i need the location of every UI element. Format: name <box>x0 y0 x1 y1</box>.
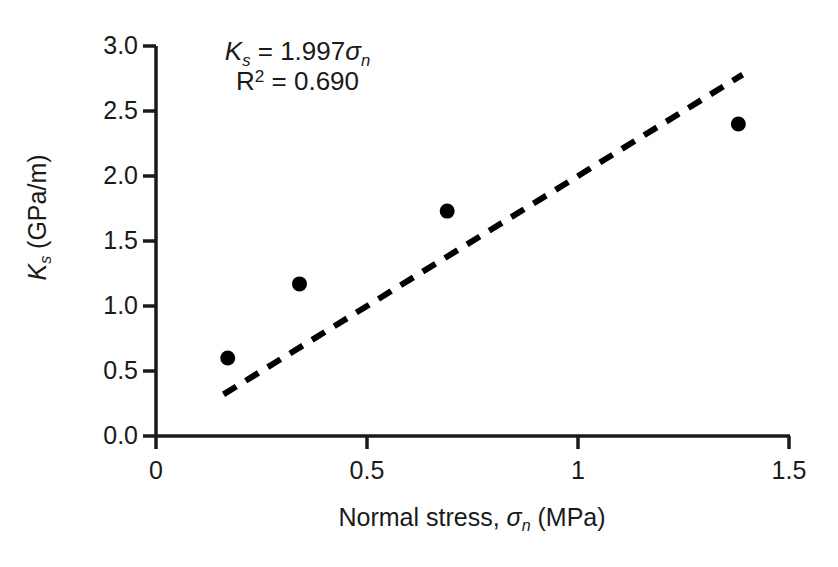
equation-symbol: K <box>225 36 242 66</box>
y-axis-symbol: K <box>23 264 51 281</box>
y-tick-label: 1.0 <box>68 293 138 318</box>
x-axis-units: (MPa) <box>531 503 606 531</box>
equation-subscript: s <box>242 51 250 70</box>
data-point <box>731 117 746 132</box>
x-axis-sigma: σ <box>507 503 522 531</box>
equation-line: Ks = 1.997σn <box>180 36 415 66</box>
data-point <box>292 276 307 291</box>
regression-annotation: Ks = 1.997σn R2 = 0.690 <box>180 36 415 97</box>
x-tick-label: 1.5 <box>749 458 829 483</box>
y-axis-units: (GPa/m) <box>23 154 51 255</box>
x-axis-prefix: Normal stress, <box>338 503 506 531</box>
y-axis-title: Ks (GPa/m) <box>25 118 50 318</box>
chart-figure: Ks (GPa/m) Normal stress, σn (MPa) Ks = … <box>0 0 838 567</box>
r-squared-label: R <box>236 66 255 96</box>
y-tick-label: 2.5 <box>68 98 138 123</box>
y-tick-label: 1.5 <box>68 228 138 253</box>
data-point <box>220 351 235 366</box>
r-squared-exponent: 2 <box>255 66 265 86</box>
trendline <box>224 75 743 395</box>
x-tick-label: 0.5 <box>327 458 407 483</box>
y-tick-label: 2.0 <box>68 163 138 188</box>
y-axis-subscript: s <box>37 256 54 264</box>
x-axis-sigma-subscript: n <box>522 517 531 534</box>
y-tick-label: 3.0 <box>68 33 138 58</box>
y-tick-label: 0.0 <box>68 423 138 448</box>
equation-sigma-subscript: n <box>361 51 370 70</box>
r-squared-line: R2 = 0.690 <box>180 66 415 96</box>
equation-sigma: σ <box>345 36 361 66</box>
x-tick-label: 0 <box>116 458 196 483</box>
x-tick-label: 1 <box>538 458 618 483</box>
equation-body: = 1.997 <box>251 36 346 66</box>
data-point <box>440 204 455 219</box>
r-squared-value: = 0.690 <box>264 66 359 96</box>
y-tick-label: 0.5 <box>68 358 138 383</box>
data-point-group <box>220 117 746 366</box>
x-axis-title: Normal stress, σn (MPa) <box>156 505 788 530</box>
